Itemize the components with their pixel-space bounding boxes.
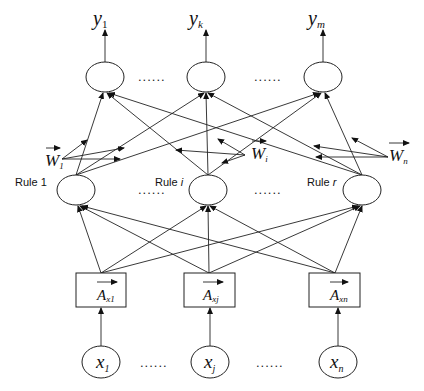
input-to-antecedent-edges xyxy=(101,308,338,346)
rule-label-i: Rule i xyxy=(155,176,184,188)
output-node-1 xyxy=(86,62,124,92)
output-label-m: ym xyxy=(306,7,325,30)
rule-layer: ...... ...... Rule 1 Rule i Rule r xyxy=(15,175,381,205)
input-layer: ...... ...... x1 xj xn xyxy=(82,346,357,378)
output-label-1: y1 xyxy=(91,7,107,30)
output-label-k: yk xyxy=(187,7,204,30)
rule-label-r: Rule r xyxy=(307,176,338,188)
output-node-m xyxy=(304,62,342,92)
output-arrows xyxy=(105,30,323,62)
rule-node-1 xyxy=(57,175,95,205)
output-layer: ...... ...... y1 yk ym xyxy=(86,7,342,92)
weight-arrows xyxy=(62,138,388,163)
antecedent-layer: Ax1 Axj Axn xyxy=(76,273,360,307)
rule-node-i xyxy=(189,175,227,205)
ellipsis-rule-2: ...... xyxy=(254,182,282,197)
antecedent-to-rule-edges xyxy=(78,206,362,273)
network-diagram: ...... ...... y1 yk ym ...... ...... Rul… xyxy=(0,0,424,391)
rule-to-output-edges xyxy=(76,93,362,175)
rule-label-1: Rule 1 xyxy=(15,176,47,188)
ellipsis-output-1: ...... xyxy=(138,69,166,84)
ellipsis-input-2: ...... xyxy=(256,355,284,370)
output-node-k xyxy=(187,62,225,92)
weight-label-1: W1 xyxy=(45,151,64,171)
weight-label-i: Wi xyxy=(251,144,268,164)
ellipsis-output-2: ...... xyxy=(254,69,282,84)
rule-node-r xyxy=(343,175,381,205)
weight-labels: W1 Wi Wn xyxy=(45,141,409,171)
ellipsis-input-1: ...... xyxy=(140,355,168,370)
weight-label-n: Wn xyxy=(389,146,408,166)
